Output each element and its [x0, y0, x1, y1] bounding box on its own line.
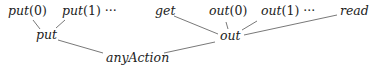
edge-out1-out — [242, 21, 257, 30]
node-put-1: put(1) ··· — [62, 3, 117, 18]
node-out-1: out(1) ··· — [261, 3, 315, 18]
node-put-0: put(0) — [8, 3, 47, 18]
node-out: out — [220, 28, 242, 43]
edge-put1-put — [56, 20, 65, 28]
edge-get-out — [174, 16, 218, 34]
edge-put-anyaction — [58, 40, 103, 53]
node-put: put — [36, 27, 58, 42]
edge-read-out — [244, 15, 337, 35]
node-get: get — [155, 3, 176, 18]
node-any-action: anyAction — [106, 50, 169, 65]
node-read: read — [340, 3, 369, 18]
edge-out-anyaction — [164, 42, 215, 53]
action-hierarchy-diagram: put(0) put(1) ··· put anyAction get out(… — [0, 0, 375, 71]
node-out-0: out(0) — [209, 3, 247, 18]
